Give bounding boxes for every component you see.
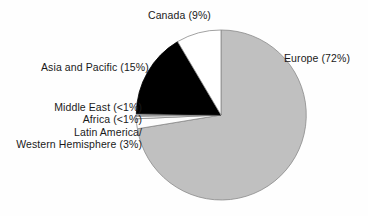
pie-label-latin-america-line1: Latin America/: [0, 126, 142, 138]
pie-label-asia-and-pacific: Asia and Pacific (15%): [41, 61, 149, 73]
pie-label-africa: Africa (<1%): [0, 113, 142, 125]
pie-label-canada: Canada (9%): [148, 9, 211, 21]
pie-label-group-left: Middle East (<1%) Africa (<1%) Latin Ame…: [0, 101, 142, 151]
pie-label-latin-america-line2: Western Hemisphere (3%): [0, 138, 142, 150]
pie-label-middle-east: Middle East (<1%): [0, 101, 142, 113]
pie-chart-figure: Canada (9%) Europe (72%) Asia and Pacifi…: [0, 0, 368, 216]
pie-label-europe: Europe (72%): [284, 52, 350, 64]
